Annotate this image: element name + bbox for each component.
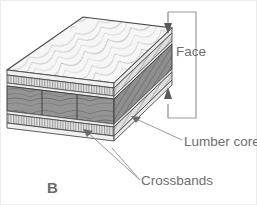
figure-canvas: Face Lumber core Crossbands B [0,0,257,205]
label-crossbands: Crossbands [141,173,213,188]
panel-front-stack [7,70,114,141]
panel-letter: B [47,179,58,196]
plywood-panel-diagram: Face Lumber core Crossbands B [0,0,257,205]
label-face: Face [176,44,206,59]
label-lumber-core: Lumber core [184,134,257,149]
